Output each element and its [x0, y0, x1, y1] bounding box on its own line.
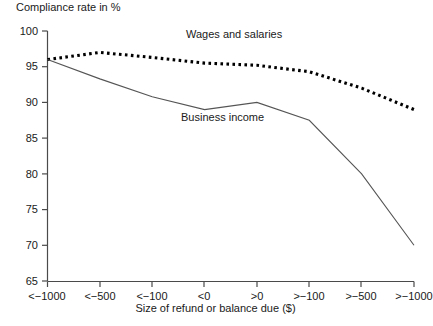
series-annotation-business-income: Business income	[181, 111, 264, 124]
x-tick-label-1: <−500	[84, 291, 115, 302]
x-tick-label-0: <−1000	[28, 291, 65, 302]
x-tick-label-7: >−1000	[395, 291, 432, 302]
x-tick-label-6: >−500	[345, 291, 376, 302]
series-group	[48, 52, 415, 245]
y-tick-label-100: 100	[8, 26, 38, 37]
y-tick-marks	[42, 31, 48, 281]
y-tick-label-80: 80	[8, 169, 38, 180]
x-tick-label-2: <−100	[136, 291, 167, 302]
x-tick-label-4: >0	[251, 291, 264, 302]
x-tick-label-5: >−100	[293, 291, 324, 302]
series-annotation-wages-and-salaries: Wages and salaries	[186, 28, 282, 41]
x-tick-marks	[48, 282, 415, 288]
y-tick-label-85: 85	[8, 133, 38, 144]
y-tick-label-65: 65	[8, 276, 38, 287]
series-line-wages-and-salaries	[48, 52, 415, 109]
y-tick-label-70: 70	[8, 240, 38, 251]
axes-group	[42, 31, 414, 287]
x-tick-label-3: <0	[198, 291, 211, 302]
y-tick-label-75: 75	[8, 204, 38, 215]
y-tick-label-95: 95	[8, 61, 38, 72]
series-line-business-income	[48, 60, 415, 246]
x-axis-title: Size of refund or balance due ($)	[0, 302, 431, 315]
y-tick-label-90: 90	[8, 97, 38, 108]
